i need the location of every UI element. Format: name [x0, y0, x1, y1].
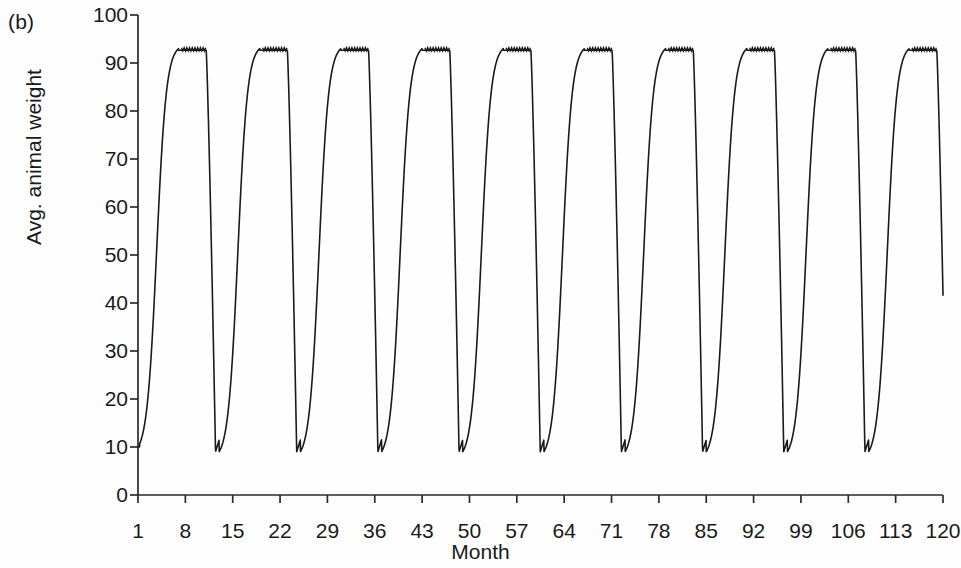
y-tick-label: 90	[74, 51, 128, 75]
plateau-serration	[263, 48, 287, 51]
plateau-serration	[344, 48, 368, 51]
y-tick-label: 80	[74, 99, 128, 123]
x-axis-label: Month	[0, 540, 961, 564]
plateau-serration	[425, 48, 449, 51]
chart-plot-area	[0, 0, 961, 568]
y-axis-label: Avg. animal weight	[22, 27, 46, 287]
plateau-serration	[912, 48, 936, 51]
x-axis-tick-labels: 1815222936435057647178859299106113120	[0, 505, 961, 539]
y-tick-label: 70	[74, 147, 128, 171]
y-tick-label: 20	[74, 387, 128, 411]
plateau-serration	[831, 48, 855, 51]
plateau-serration	[506, 48, 530, 51]
plateau-serration	[181, 48, 205, 51]
axis-lines	[138, 15, 943, 495]
y-tick-label: 100	[74, 3, 128, 27]
figure-panel: (b) Avg. animal weight Month 01020304050…	[0, 0, 961, 568]
plateau-serration	[668, 48, 692, 51]
plateau-serration	[587, 48, 611, 51]
y-tick-label: 10	[74, 435, 128, 459]
x-tick-label: 120	[913, 519, 961, 543]
chart-series-layer	[138, 48, 943, 452]
weight-curve	[138, 49, 943, 452]
plateau-serration	[750, 48, 774, 51]
y-axis-tick-labels: 0102030405060708090100	[74, 0, 128, 568]
y-tick-label: 0	[74, 483, 128, 507]
y-tick-label: 30	[74, 339, 128, 363]
y-tick-label: 40	[74, 291, 128, 315]
y-tick-label: 50	[74, 243, 128, 267]
y-tick-label: 60	[74, 195, 128, 219]
